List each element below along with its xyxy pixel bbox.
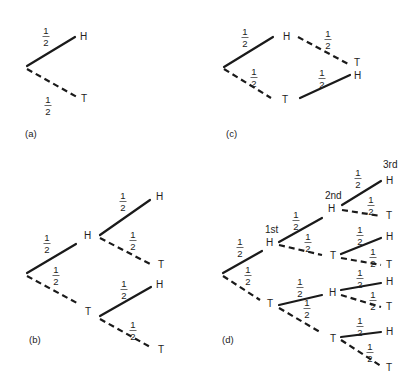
fraction-denominator: 2 <box>367 353 372 364</box>
probability-fraction: 12 <box>130 229 137 252</box>
fraction-numerator: 1 <box>251 66 256 77</box>
fraction-denominator: 2 <box>293 221 298 232</box>
fraction-numerator: 1 <box>357 224 362 235</box>
fraction-denominator: 2 <box>297 288 302 299</box>
fraction-denominator: 2 <box>370 258 375 269</box>
outcome-heads-label: H <box>283 31 290 42</box>
outcome-tails-label: T <box>386 210 392 221</box>
panel-d: 1212121212121212121212121212HTHTHTHTHTHT… <box>222 159 397 373</box>
fraction-numerator: 1 <box>325 28 330 39</box>
fraction-numerator: 1 <box>45 94 50 105</box>
probability-fraction: 12 <box>370 246 377 269</box>
probability-fraction: 12 <box>293 209 300 232</box>
outcome-tails-label: T <box>267 298 273 309</box>
branch-tails-dashed <box>342 210 381 216</box>
fraction-denominator: 2 <box>130 241 135 252</box>
probability-fraction: 12 <box>357 224 364 247</box>
probability-fraction: 12 <box>357 315 364 338</box>
fraction-denominator: 2 <box>304 309 309 320</box>
toss-level-label: 1st <box>265 224 279 235</box>
panel-b: 121212121212HTHTHT(b) <box>27 190 164 355</box>
fraction-numerator: 1 <box>370 289 375 300</box>
fraction-denominator: 2 <box>305 243 310 254</box>
fraction-denominator: 2 <box>355 179 360 190</box>
branch-tails-dashed <box>298 37 350 65</box>
outcome-tails-label: T <box>85 306 91 317</box>
fraction-denominator: 2 <box>237 248 242 259</box>
fraction-numerator: 1 <box>370 246 375 257</box>
fraction-denominator: 2 <box>357 236 362 247</box>
outcome-tails-label: T <box>330 333 336 344</box>
fraction-denominator: 2 <box>245 276 250 287</box>
outcome-tails-label: T <box>158 259 164 270</box>
outcome-heads-label: H <box>386 175 393 186</box>
outcome-tails-label: T <box>158 344 164 355</box>
panels: 1212HT(a)12121212HTTH(c)121212121212HTHT… <box>25 25 397 373</box>
panel-caption: (c) <box>226 128 237 139</box>
outcome-tails-label: T <box>386 301 392 312</box>
probability-fraction: 12 <box>44 232 51 255</box>
fraction-numerator: 1 <box>305 231 310 242</box>
outcome-tails-label: T <box>330 250 336 261</box>
fraction-numerator: 1 <box>245 264 250 275</box>
branch-tails-dashed <box>223 276 260 300</box>
fraction-denominator: 2 <box>370 301 375 312</box>
outcome-heads-label: H <box>386 276 393 287</box>
outcome-heads-label: H <box>266 237 273 248</box>
outcome-tails-label: T <box>354 57 360 68</box>
probability-fraction: 12 <box>53 264 60 287</box>
probability-fraction: 12 <box>304 297 311 320</box>
outcome-heads-label: H <box>156 191 163 202</box>
toss-level-label: 3rd <box>383 159 397 170</box>
fraction-numerator: 1 <box>53 264 58 275</box>
branch-tails-dashed <box>27 69 77 97</box>
fraction-numerator: 1 <box>130 319 135 330</box>
fraction-denominator: 2 <box>45 106 50 117</box>
fraction-numerator: 1 <box>357 315 362 326</box>
panel-caption: (d) <box>222 334 234 345</box>
outcome-heads-label: H <box>156 279 163 290</box>
fraction-denominator: 2 <box>357 279 362 290</box>
fraction-denominator: 2 <box>242 38 247 49</box>
probability-fraction: 12 <box>357 267 364 290</box>
probability-fraction: 12 <box>297 276 304 299</box>
fraction-numerator: 1 <box>367 341 372 352</box>
probability-fraction: 12 <box>237 236 244 259</box>
probability-fraction: 12 <box>130 319 137 342</box>
probability-fraction: 12 <box>368 194 375 217</box>
branch-tails-dashed <box>100 238 152 265</box>
outcome-heads-label: H <box>328 203 335 214</box>
panel-caption: (b) <box>29 334 41 345</box>
fraction-denominator: 2 <box>325 40 330 51</box>
fraction-numerator: 1 <box>293 209 298 220</box>
probability-fraction: 12 <box>245 264 252 287</box>
fraction-numerator: 1 <box>120 190 125 201</box>
fraction-denominator: 2 <box>121 290 126 301</box>
outcome-heads-label: H <box>80 31 87 42</box>
probability-fraction: 12 <box>325 28 332 51</box>
fraction-numerator: 1 <box>130 229 135 240</box>
fraction-numerator: 1 <box>43 25 48 36</box>
fraction-numerator: 1 <box>355 167 360 178</box>
fraction-denominator: 2 <box>251 78 256 89</box>
fraction-denominator: 2 <box>357 327 362 338</box>
fraction-denominator: 2 <box>53 276 58 287</box>
branch-tails-dashed <box>100 319 152 348</box>
branch-heads-solid <box>224 37 273 67</box>
fraction-numerator: 1 <box>121 278 126 289</box>
probability-fraction: 12 <box>121 278 128 301</box>
fraction-numerator: 1 <box>304 297 309 308</box>
branch-tails-dashed <box>27 276 77 303</box>
probability-fraction: 12 <box>120 190 127 213</box>
outcome-heads-label: H <box>329 287 336 298</box>
probability-fraction: 12 <box>43 25 50 48</box>
tree-diagram-canvas: 1212HT(a)12121212HTTH(c)121212121212HTHT… <box>0 0 415 386</box>
probability-fraction: 12 <box>367 341 374 364</box>
outcome-tails-label: T <box>386 362 392 373</box>
probability-fraction: 12 <box>370 289 377 312</box>
fraction-denominator: 2 <box>319 79 324 90</box>
branch-heads-solid <box>279 218 322 242</box>
panel-caption: (a) <box>25 128 37 139</box>
fraction-numerator: 1 <box>297 276 302 287</box>
toss-level-label: 2nd <box>325 190 342 201</box>
